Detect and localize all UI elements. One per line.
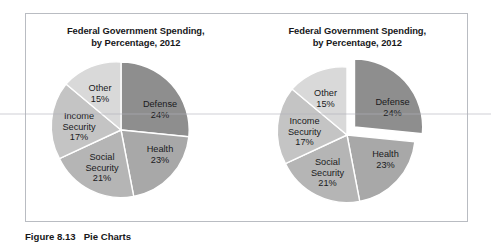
- figure-caption-spacer: [76, 231, 84, 242]
- figure-caption-title: Pie Charts: [84, 231, 131, 242]
- pie-slice-defense-exploded-group[interactable]: [354, 59, 422, 134]
- pie-exploded-svg: [247, 13, 469, 222]
- figure-caption: Figure 8.13 Pie Charts: [25, 231, 131, 242]
- chart-panel-exploded-pie: Federal Government Spending, by Percenta…: [247, 13, 469, 222]
- figure-caption-label: Figure 8.13: [25, 231, 76, 242]
- pie-chart-exploded: Defense 24% Health 23% Social Security 2…: [247, 13, 469, 222]
- charts-row: Federal Government Spending, by Percenta…: [25, 13, 468, 222]
- chart-panel-standard-pie: Federal Government Spending, by Percenta…: [25, 13, 247, 222]
- pie-slice-defense[interactable]: [121, 62, 189, 137]
- figure-page: Federal Government Spending, by Percenta…: [0, 0, 491, 249]
- pie-slice-defense-exploded[interactable]: [354, 59, 422, 134]
- pie-standard-svg: [25, 13, 247, 222]
- pie-chart-standard: Defense 24% Health 23% Social Security 2…: [25, 13, 247, 222]
